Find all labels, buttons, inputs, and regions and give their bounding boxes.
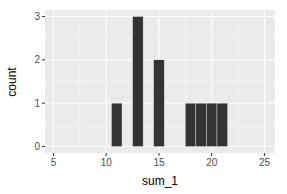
histogram-bar bbox=[111, 103, 122, 146]
y-tick-label: 1 bbox=[34, 98, 40, 109]
histogram-bar bbox=[154, 60, 165, 147]
x-tick-label: 5 bbox=[51, 157, 57, 168]
y-axis-title: count bbox=[5, 67, 19, 97]
y-axis: 0123 bbox=[34, 11, 45, 152]
x-axis-title: sum_1 bbox=[142, 174, 178, 188]
x-tick-label: 15 bbox=[153, 157, 165, 168]
y-tick-label: 0 bbox=[34, 141, 40, 152]
histogram-bar bbox=[206, 103, 217, 146]
histogram-bar bbox=[133, 17, 144, 147]
histogram-chart: 0123 510152025 sum_1 count bbox=[0, 0, 287, 194]
y-tick-label: 2 bbox=[34, 54, 40, 65]
x-tick-label: 20 bbox=[206, 157, 218, 168]
y-tick-label: 3 bbox=[34, 11, 40, 22]
histogram-bar bbox=[217, 103, 228, 146]
histogram-bar bbox=[196, 103, 207, 146]
x-axis: 510152025 bbox=[51, 153, 271, 168]
x-tick-label: 25 bbox=[259, 157, 271, 168]
histogram-bar bbox=[185, 103, 196, 146]
x-tick-label: 10 bbox=[101, 157, 113, 168]
